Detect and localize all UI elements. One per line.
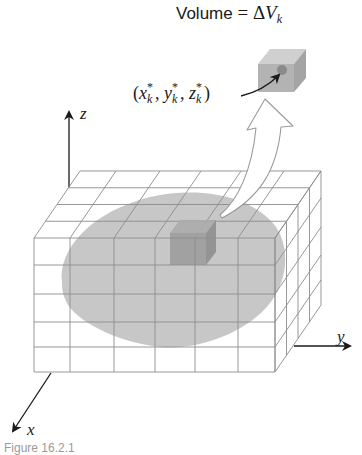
highlighted-sub-box <box>170 220 216 265</box>
sample-point <box>277 65 287 75</box>
close-paren: ) <box>204 83 210 103</box>
equals-sign: = <box>237 2 248 23</box>
figure-caption: Figure 16.2.1 <box>4 441 75 455</box>
volume-label: Volume = ΔVk <box>176 2 282 27</box>
coord-y-sub: k <box>172 92 177 107</box>
coord-x-sub: k <box>147 92 152 107</box>
x-axis-label: x <box>27 420 35 440</box>
volume-text: Volume <box>176 4 233 23</box>
z-axis-label: z <box>80 104 87 124</box>
volume-subscript: k <box>277 12 282 26</box>
sample-point-label: (x*k, y*k, z*k) <box>133 83 210 104</box>
y-axis-label: y <box>337 327 345 347</box>
delta-symbol: Δ <box>253 2 265 23</box>
coord-x: x <box>139 83 147 103</box>
separator-2: , <box>180 83 189 103</box>
separator-1: , <box>155 83 164 103</box>
coord-y: y <box>164 83 172 103</box>
coord-z-sub: k <box>196 92 201 107</box>
solid-region <box>62 193 286 348</box>
coord-z: z <box>189 83 196 103</box>
volume-variable: V <box>265 2 277 23</box>
